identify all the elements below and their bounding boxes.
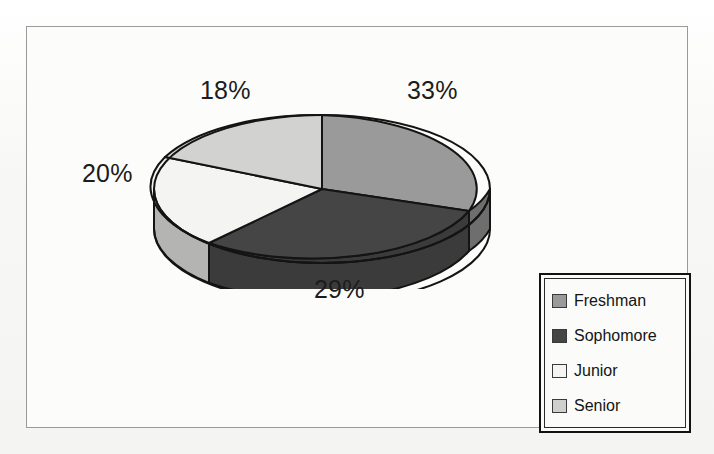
pie-chart-graphic xyxy=(137,99,513,289)
legend-item-freshman[interactable]: Freshman xyxy=(552,288,678,314)
pie-label-senior-pct: 18% xyxy=(200,76,251,105)
legend-label-sophomore: Sophomore xyxy=(574,328,657,344)
pie-label-freshman-pct: 33% xyxy=(407,76,458,105)
legend-swatch-junior xyxy=(552,364,567,378)
pie-label-junior-pct: 20% xyxy=(82,159,133,188)
legend-inner-border: Freshman Sophomore Junior Senior xyxy=(544,278,686,428)
chart-page: 18% 33% 20% 29% Freshman Sophomore Junio… xyxy=(0,0,714,454)
legend-label-senior: Senior xyxy=(574,398,620,414)
legend-label-freshman: Freshman xyxy=(574,293,646,309)
legend-item-senior[interactable]: Senior xyxy=(552,393,678,419)
legend-swatch-freshman xyxy=(552,294,567,308)
legend-item-sophomore[interactable]: Sophomore xyxy=(552,323,678,349)
legend-swatch-sophomore xyxy=(552,329,567,343)
legend-item-junior[interactable]: Junior xyxy=(552,358,678,384)
legend-label-junior: Junior xyxy=(574,363,618,379)
legend-swatch-senior xyxy=(552,399,567,413)
pie-label-sophomore-pct: 29% xyxy=(314,275,365,304)
chart-legend: Freshman Sophomore Junior Senior xyxy=(539,273,691,433)
chart-frame: 18% 33% 20% 29% Freshman Sophomore Junio… xyxy=(26,26,688,428)
